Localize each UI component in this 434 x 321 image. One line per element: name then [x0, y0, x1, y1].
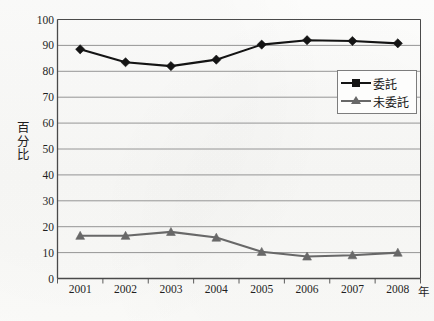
legend-item-1[interactable]: 未委託: [341, 92, 412, 110]
data-point-marker-diamond: [257, 40, 266, 49]
data-point-marker-diamond: [166, 62, 175, 71]
data-point-marker-diamond: [302, 36, 311, 45]
legend-marker-triangle-icon: [341, 95, 371, 107]
legend-label-0: 委託: [371, 75, 397, 92]
data-point-marker-diamond: [393, 39, 402, 48]
x-axis-title: 年: [418, 283, 429, 299]
legend-label-1: 未委託: [371, 93, 409, 110]
legend-item-0[interactable]: 委託: [341, 74, 412, 92]
data-point-marker-diamond: [348, 36, 357, 45]
plot-area: [0, 0, 434, 321]
line-chart: 百 分 比 0102030405060708090100 20012002200…: [0, 0, 434, 321]
data-point-marker-diamond: [212, 55, 221, 64]
data-point-marker-diamond: [76, 45, 85, 54]
legend-marker-diamond-icon: [341, 77, 371, 89]
data-point-marker-diamond: [121, 58, 130, 67]
chart-legend[interactable]: 委託 未委託: [337, 70, 417, 114]
